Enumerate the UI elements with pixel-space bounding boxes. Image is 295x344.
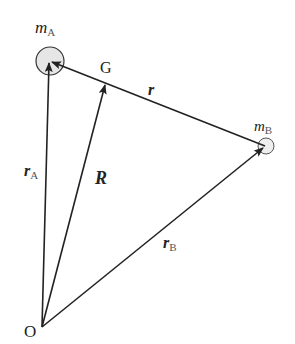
label-g: G — [100, 59, 112, 76]
label-r: r — [148, 81, 155, 98]
label-R: R — [94, 168, 107, 188]
label-r-a: rA — [24, 162, 38, 181]
vector-r-a — [42, 63, 49, 327]
vector-r-b — [42, 148, 263, 327]
particle-b — [258, 138, 274, 154]
vector-R — [42, 85, 105, 327]
particle-a — [36, 47, 64, 75]
label-r-b: rB — [163, 234, 177, 253]
label-m-b: mB — [254, 118, 272, 136]
label-m-a: mA — [35, 18, 55, 38]
vector-r — [52, 62, 265, 146]
label-origin: O — [24, 322, 36, 341]
center-of-mass-diagram: mA mB G r rA R rB O — [0, 0, 295, 344]
